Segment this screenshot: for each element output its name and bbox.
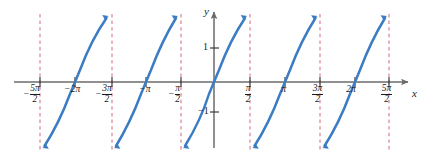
fraction: 3π2 <box>102 84 113 105</box>
denominator: 2 <box>102 95 113 105</box>
fraction: 5π2 <box>30 84 41 105</box>
denominator: 2 <box>312 95 323 105</box>
tick-value: 2π <box>346 84 356 94</box>
x-tick-label-neg-pi-over-2: −π2 <box>168 84 180 105</box>
x-tick-label-neg-5pi-over-2: −5π2 <box>23 84 40 105</box>
minus-sign: − <box>95 90 101 100</box>
denominator: 2 <box>30 95 41 105</box>
x-axis-label: x <box>412 88 417 99</box>
x-tick-label-3pi-over-2: 3π2 <box>312 84 323 105</box>
x-tick-label-neg-3pi-over-2: −3π2 <box>95 84 112 105</box>
tangent-function-graph: y x 1 −1 −2π −π π 2π −5π2 −3π2 −π2 π2 3π… <box>0 0 429 159</box>
fraction: 5π2 <box>381 84 392 105</box>
y-tick-label-1: 1 <box>203 42 208 52</box>
denominator: 2 <box>175 95 181 105</box>
denominator: 2 <box>245 95 251 105</box>
tick-value: π <box>146 84 151 94</box>
x-tick-label-pi: π <box>281 85 286 95</box>
fraction: π2 <box>175 84 181 105</box>
x-tick-label-negpi: −π <box>139 85 150 95</box>
minus-sign: − <box>23 90 29 100</box>
minus-sign: − <box>139 85 145 95</box>
minus-sign: − <box>64 85 70 95</box>
y-axis-label: y <box>204 6 209 17</box>
x-tick-label-neg2pi: −2π <box>64 85 80 95</box>
minus-sign: − <box>168 90 174 100</box>
tick-value: 2π <box>71 84 81 94</box>
x-tick-label-2pi: 2π <box>346 85 356 95</box>
y-tick-label-neg1: −1 <box>198 106 209 116</box>
x-tick-label-5pi-over-2: 5π2 <box>381 84 392 105</box>
fraction: 3π2 <box>312 84 323 105</box>
tick-value: π <box>281 84 286 94</box>
fraction: π2 <box>245 84 251 105</box>
plot-canvas <box>0 0 429 159</box>
denominator: 2 <box>381 95 392 105</box>
x-tick-label-pi-over-2: π2 <box>245 84 251 105</box>
